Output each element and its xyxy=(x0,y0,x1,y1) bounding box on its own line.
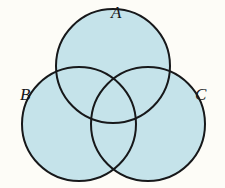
set-label-b: B xyxy=(20,86,30,103)
set-label-a: A xyxy=(111,4,121,21)
set-label-c: C xyxy=(195,86,206,103)
venn-fills xyxy=(22,9,205,181)
venn-diagram-figure: A B C xyxy=(0,0,225,188)
venn-diagram-canvas xyxy=(0,0,225,188)
